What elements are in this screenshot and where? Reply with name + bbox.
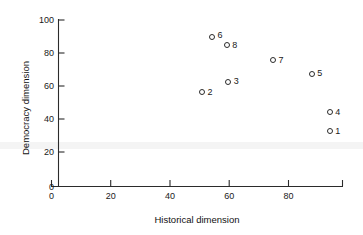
data-point-label-1: 1 [335,127,340,136]
data-points-layer: 6 8 7 5 3 2 4 1 [0,0,363,235]
data-point-5[interactable] [309,71,315,77]
data-point-3[interactable] [225,79,231,85]
scatter-plot-figure: 100 80 60 40 20 0 0 20 40 60 80 Historic… [0,0,363,235]
data-point-label-5: 5 [317,68,322,77]
data-point-4[interactable] [327,109,333,115]
data-point-label-7: 7 [279,55,284,64]
data-point-8[interactable] [224,42,230,48]
data-point-label-6: 6 [218,30,223,39]
data-point-1[interactable] [327,128,333,134]
data-point-label-3: 3 [234,77,239,86]
data-point-label-8: 8 [232,41,237,50]
data-point-7[interactable] [270,57,276,63]
data-point-label-2: 2 [208,88,213,97]
data-point-6[interactable] [209,34,215,40]
data-point-label-4: 4 [335,107,340,116]
data-point-2[interactable] [199,89,205,95]
